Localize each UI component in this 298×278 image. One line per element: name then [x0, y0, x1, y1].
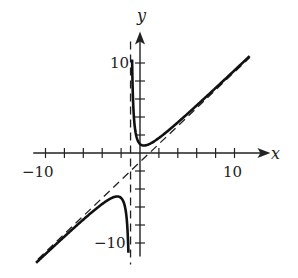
curve-right-branch [132, 56, 250, 145]
curve-left-branch [36, 196, 128, 262]
x-axis-label: x [271, 144, 280, 163]
y-tick-label-10: 10 [110, 54, 129, 72]
x-tick-label-neg10: −10 [22, 163, 54, 181]
x-tick-label-10: 10 [223, 163, 242, 181]
chart: −10 10 10 −10 x y [0, 0, 298, 278]
slant-asymptote [38, 58, 250, 260]
y-tick-label-neg10: −10 [94, 234, 126, 252]
y-axis-label: y [136, 6, 147, 25]
